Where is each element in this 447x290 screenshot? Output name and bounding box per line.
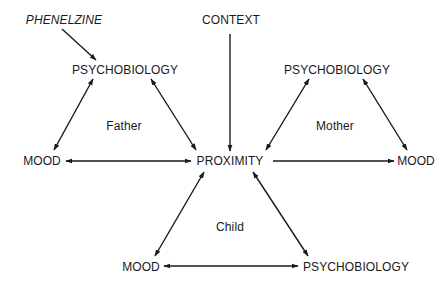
edge-psychobiology-mother-proximity	[266, 79, 309, 150]
node-psychobiology-mother: PSYCHOBIOLOGY	[284, 63, 390, 77]
node-phenelzine: PHENELZINE	[26, 13, 102, 27]
edge-proximity-psychobiology-child	[253, 172, 308, 256]
edge-psychobiology-father-mood-father	[54, 79, 93, 150]
family-interaction-diagram: PHENELZINE CONTEXT PSYCHOBIOLOGY PSYCHOB…	[0, 0, 447, 290]
group-label-child: Child	[216, 220, 244, 234]
edge-proximity-mood-child	[155, 172, 204, 256]
edge-layer	[0, 0, 447, 290]
node-mood-child: MOOD	[122, 260, 160, 274]
edge-psychobiology-father-proximity	[151, 79, 196, 150]
node-mood-mother: MOOD	[397, 154, 435, 168]
edge-phenelzine-to-psychobiology-father	[62, 29, 96, 60]
node-psychobiology-child: PSYCHOBIOLOGY	[303, 260, 409, 274]
group-label-father: Father	[106, 119, 141, 133]
node-mood-father: MOOD	[23, 154, 61, 168]
node-psychobiology-father: PSYCHOBIOLOGY	[72, 63, 178, 77]
node-proximity: PROXIMITY	[197, 154, 264, 168]
group-label-mother: Mother	[316, 119, 354, 133]
edge-psychobiology-mother-mood-mother	[363, 79, 407, 150]
node-context: CONTEXT	[202, 13, 260, 27]
